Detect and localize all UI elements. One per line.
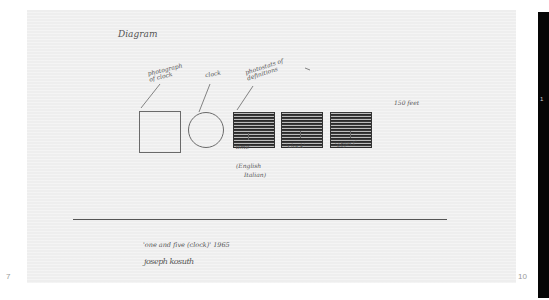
page-number-left: 7 (6, 272, 10, 281)
label-clock-word: 'clock' (286, 143, 305, 149)
photograph-square (139, 111, 181, 153)
caption-title: 'one and five (clock)' 1965 (143, 242, 230, 249)
tick-object (350, 131, 351, 138)
page-number-right: 10 (518, 272, 527, 281)
tick-time (248, 133, 249, 140)
leader-lines (0, 0, 549, 300)
caption-signature: joseph kosuth (144, 258, 194, 266)
label-language-line2: Italian) (244, 172, 266, 178)
clock-circle (188, 112, 224, 148)
label-time: 'time' (234, 144, 251, 150)
tick-clock (300, 131, 301, 138)
label-language-line1: (English (236, 163, 261, 169)
horizontal-rule (73, 219, 447, 220)
